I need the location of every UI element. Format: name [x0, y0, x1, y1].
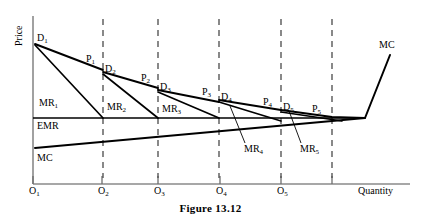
mr-label-1: MR1 [39, 98, 58, 108]
dashed-verticals [103, 19, 332, 178]
mc-curve-label-right: MC [379, 40, 395, 50]
x-axis-ticks [33, 176, 332, 184]
price-label-p2: P2 [141, 73, 150, 83]
figure-container: Price Quantity O1 O2 O3 O4 O5 D1 D2 D3 D… [0, 0, 421, 220]
price-label-p5: P5 [312, 104, 321, 114]
x-tick-label-o5: O5 [277, 186, 288, 196]
demand-label-d3: D3 [160, 82, 171, 92]
figure-caption: Figure 13.12 [0, 202, 421, 214]
demand-label-d2: D2 [105, 64, 116, 74]
x-axis-label: Quantity [358, 186, 393, 196]
x-tick-label-o2: O2 [98, 186, 109, 196]
y-axis-label: Price [14, 25, 24, 46]
x-tick-label-o1: O1 [29, 186, 40, 196]
emr-curve-label: EMR [37, 121, 59, 131]
price-label-p1: P1 [86, 54, 95, 64]
marginal-revenue-group [35, 45, 342, 121]
mr-label-2: MR2 [107, 102, 126, 112]
price-label-p3: P3 [202, 87, 211, 97]
mr-label-4: MR4 [244, 144, 263, 154]
mr5-leader-line [289, 111, 301, 143]
mr-label-5: MR5 [300, 144, 319, 154]
mr-label-3: MR3 [162, 104, 181, 114]
x-tick-label-o3: O3 [154, 186, 165, 196]
demand-label-d1: D1 [37, 33, 48, 43]
price-label-p4: P4 [263, 97, 272, 107]
x-tick-label-o4: O4 [216, 186, 227, 196]
mr4-leader-line [230, 106, 245, 143]
mc-curve-label-left: MC [37, 153, 53, 163]
demand-label-d4: D4 [221, 92, 232, 102]
demand-label-d5: D5 [283, 102, 294, 112]
